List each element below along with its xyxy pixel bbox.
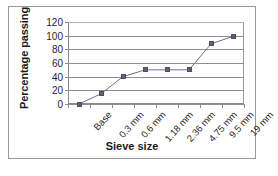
data-point: [77, 102, 82, 107]
x-axis-title: Sieve size: [9, 140, 255, 152]
x-tick-mark-1: [90, 104, 91, 108]
data-point: [187, 67, 192, 72]
y-tick-label-120: 120: [35, 17, 63, 28]
y-tick-label-40: 40: [35, 71, 63, 82]
chart-frame: Percentage passing 020406080100120 Base0…: [8, 6, 256, 159]
x-tick-mark-8: [244, 104, 245, 108]
data-point: [121, 74, 126, 79]
x-tick-mark-6: [200, 104, 201, 108]
x-tick-label-0: Base: [91, 109, 114, 132]
x-tick-mark-0: [68, 104, 69, 108]
x-tick-mark-5: [178, 104, 179, 108]
data-point: [143, 67, 148, 72]
x-tick-mark-3: [134, 104, 135, 108]
plot-area: 020406080100120 Base0.3 mm0.6 mm1.18 mm2…: [68, 22, 244, 104]
y-tick-label-80: 80: [35, 44, 63, 55]
x-tick-mark-2: [112, 104, 113, 108]
y-tick-label-0: 0: [35, 99, 63, 110]
data-point: [231, 34, 236, 39]
x-tick-mark-4: [156, 104, 157, 108]
data-point: [165, 67, 170, 72]
data-point: [99, 91, 104, 96]
y-tick-label-60: 60: [35, 58, 63, 69]
data-point: [209, 41, 214, 46]
y-tick-label-100: 100: [35, 30, 63, 41]
series-line: [68, 22, 244, 104]
y-axis-title: Percentage passing: [18, 2, 30, 114]
y-tick-label-20: 20: [35, 85, 63, 96]
x-tick-mark-7: [222, 104, 223, 108]
